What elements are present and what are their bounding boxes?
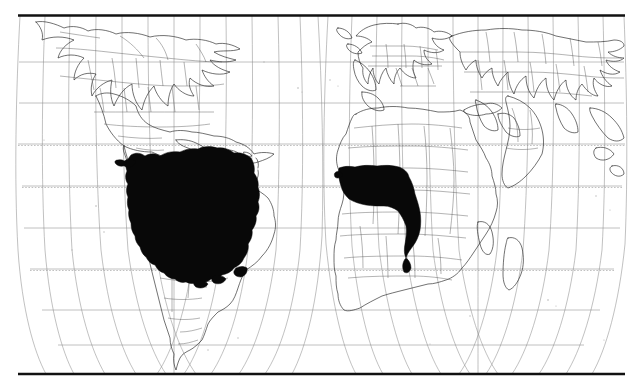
map-canvas	[0, 0, 643, 392]
distribution-map-figure	[0, 0, 643, 392]
page-background	[0, 0, 643, 392]
